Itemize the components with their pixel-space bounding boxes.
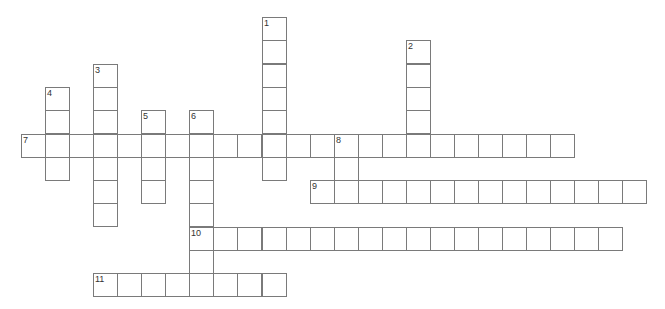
- clue-number: 4: [47, 88, 52, 98]
- crossword-cell[interactable]: [262, 87, 287, 111]
- crossword-cell[interactable]: [141, 273, 166, 297]
- crossword-cell[interactable]: [262, 227, 287, 251]
- crossword-cell[interactable]: 4: [45, 87, 70, 111]
- crossword-cell[interactable]: [213, 273, 238, 297]
- crossword-cell[interactable]: [262, 40, 287, 64]
- crossword-cell[interactable]: [526, 180, 551, 204]
- crossword-cell[interactable]: [454, 180, 479, 204]
- crossword-cell[interactable]: 3: [93, 64, 118, 88]
- crossword-cell[interactable]: [45, 157, 70, 181]
- crossword-cell[interactable]: 9: [310, 180, 335, 204]
- crossword-cell[interactable]: [574, 180, 599, 204]
- crossword-cell[interactable]: [598, 180, 623, 204]
- crossword-cell[interactable]: [454, 134, 479, 158]
- crossword-cell[interactable]: [550, 180, 575, 204]
- crossword-cell[interactable]: [598, 227, 623, 251]
- clue-number: 8: [336, 135, 341, 145]
- crossword-cell[interactable]: 11: [93, 273, 118, 297]
- crossword-cell[interactable]: [454, 227, 479, 251]
- crossword-cell[interactable]: [406, 64, 431, 88]
- crossword-cell[interactable]: [189, 250, 214, 274]
- crossword-cell[interactable]: [262, 110, 287, 134]
- crossword-cell[interactable]: [213, 227, 238, 251]
- crossword-cell[interactable]: [141, 157, 166, 181]
- clue-number: 9: [312, 181, 317, 191]
- crossword-cell[interactable]: [262, 64, 287, 88]
- crossword-cell[interactable]: [478, 134, 503, 158]
- crossword-cell[interactable]: [237, 273, 262, 297]
- crossword-cell[interactable]: [262, 157, 287, 181]
- crossword-cell[interactable]: [93, 157, 118, 181]
- crossword-cell[interactable]: [502, 227, 527, 251]
- crossword-cell[interactable]: [93, 203, 118, 227]
- crossword-cell[interactable]: [310, 227, 335, 251]
- crossword-cell[interactable]: [69, 134, 94, 158]
- crossword-cell[interactable]: [93, 180, 118, 204]
- crossword-cell[interactable]: [141, 134, 166, 158]
- crossword-cell[interactable]: [141, 180, 166, 204]
- crossword-cell[interactable]: [237, 134, 262, 158]
- clue-number: 11: [95, 274, 104, 284]
- crossword-cell[interactable]: [550, 227, 575, 251]
- crossword-cell[interactable]: [478, 227, 503, 251]
- crossword-cell[interactable]: [189, 157, 214, 181]
- crossword-cell[interactable]: [286, 227, 311, 251]
- crossword-cell[interactable]: [189, 273, 214, 297]
- crossword-cell[interactable]: [358, 134, 383, 158]
- crossword-cell[interactable]: [406, 110, 431, 134]
- crossword-cell[interactable]: 5: [141, 110, 166, 134]
- crossword-cell[interactable]: [406, 134, 431, 158]
- crossword-cell[interactable]: [189, 134, 214, 158]
- crossword-cell[interactable]: [262, 273, 287, 297]
- crossword-cell[interactable]: [334, 180, 359, 204]
- crossword-cell[interactable]: [189, 180, 214, 204]
- crossword-cell[interactable]: [213, 134, 238, 158]
- crossword-cell[interactable]: [502, 134, 527, 158]
- crossword-cell[interactable]: 6: [189, 110, 214, 134]
- crossword-cell[interactable]: [502, 180, 527, 204]
- crossword-cell[interactable]: [165, 134, 190, 158]
- crossword-cell[interactable]: [382, 180, 407, 204]
- crossword-cell[interactable]: [237, 227, 262, 251]
- crossword-cell[interactable]: [358, 180, 383, 204]
- crossword-cell[interactable]: [406, 227, 431, 251]
- crossword-cell[interactable]: [406, 180, 431, 204]
- clue-number: 1: [264, 18, 269, 28]
- crossword-cell[interactable]: [358, 227, 383, 251]
- crossword-cell[interactable]: [117, 273, 142, 297]
- crossword-cell[interactable]: [478, 180, 503, 204]
- crossword-cell[interactable]: [45, 134, 70, 158]
- crossword-cell[interactable]: [165, 273, 190, 297]
- crossword-cell[interactable]: [286, 134, 311, 158]
- crossword-cell[interactable]: [382, 134, 407, 158]
- crossword-cell[interactable]: [117, 134, 142, 158]
- clue-number: 10: [191, 228, 201, 238]
- clue-number: 3: [95, 65, 100, 75]
- crossword-cell[interactable]: 7: [21, 134, 46, 158]
- crossword-cell[interactable]: [45, 110, 70, 134]
- crossword-cell[interactable]: [334, 227, 359, 251]
- crossword-cell[interactable]: [93, 110, 118, 134]
- crossword-cell[interactable]: [406, 87, 431, 111]
- crossword-cell[interactable]: [550, 134, 575, 158]
- crossword-cell[interactable]: [93, 134, 118, 158]
- crossword-cell[interactable]: 8: [334, 134, 359, 158]
- clue-number: 2: [408, 41, 413, 51]
- crossword-cell[interactable]: [189, 203, 214, 227]
- crossword-cell[interactable]: [334, 157, 359, 181]
- crossword-cell[interactable]: [622, 180, 647, 204]
- crossword-cell[interactable]: [430, 180, 455, 204]
- crossword-cell[interactable]: [93, 87, 118, 111]
- crossword-cell[interactable]: [430, 227, 455, 251]
- crossword-cell[interactable]: [526, 134, 551, 158]
- crossword-cell[interactable]: 10: [189, 227, 214, 251]
- crossword-cell[interactable]: [310, 134, 335, 158]
- crossword-cell[interactable]: [574, 227, 599, 251]
- crossword-cell[interactable]: [526, 227, 551, 251]
- crossword-cell[interactable]: 2: [406, 40, 431, 64]
- crossword-cell[interactable]: [262, 134, 287, 158]
- crossword-cell[interactable]: [430, 134, 455, 158]
- crossword-cell[interactable]: [382, 227, 407, 251]
- crossword-cell[interactable]: 1: [262, 17, 287, 41]
- clue-number: 5: [143, 111, 148, 121]
